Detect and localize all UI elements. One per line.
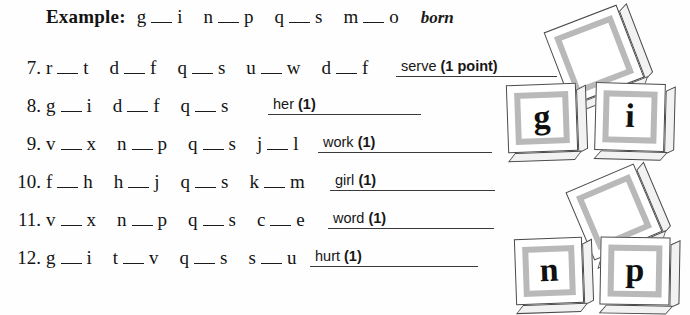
letter-pair: gi (46, 247, 92, 269)
pair-left-letter: q (181, 171, 191, 193)
pair-right-letter: s (220, 247, 227, 269)
block-inner-frame: i (602, 90, 657, 143)
pair-left-letter: g (46, 95, 56, 117)
block-glyph: g (533, 100, 551, 135)
answer-field[interactable]: work (1) (318, 129, 492, 153)
pair-blank[interactable] (132, 224, 153, 226)
pair-blank[interactable] (61, 148, 82, 150)
answer-points: (1) (358, 134, 376, 150)
answer-word: hurt (315, 248, 340, 264)
example-row: Example: ginpqsmo born (46, 6, 454, 28)
letter-pair: uw (246, 57, 300, 79)
pair-left-letter: d (110, 57, 120, 79)
problem-number: 9. (0, 133, 46, 155)
pair-blank[interactable] (128, 186, 149, 188)
pair-left-letter: g (137, 6, 147, 28)
block-face: i (594, 82, 666, 152)
letter-block-n: n (514, 237, 584, 305)
answer-field[interactable]: serve (1 point) (396, 53, 557, 77)
block-side-bottom (599, 305, 674, 315)
pair-right-letter: j (154, 171, 159, 193)
pair-blank[interactable] (151, 21, 172, 23)
letter-pair: gi (46, 95, 92, 117)
pair-left-letter: q (188, 133, 198, 155)
answer-field[interactable]: hurt (1) (310, 243, 478, 267)
letter-pair: qs (188, 209, 236, 231)
pair-blank[interactable] (203, 224, 224, 226)
pair-blank[interactable] (61, 110, 82, 112)
problem-letter-pairs: vxnpqsjl (46, 133, 298, 155)
answer-field[interactable]: girl (1) (330, 167, 495, 191)
pair-left-letter: n (117, 133, 127, 155)
answer-field[interactable]: her (1) (268, 91, 421, 115)
letter-pair: df (113, 95, 160, 117)
letter-pair: qs (180, 247, 228, 269)
answer-field[interactable]: word (1) (328, 205, 494, 229)
block-glyph: i (625, 99, 635, 133)
answer-points: (1) (298, 96, 316, 112)
pair-right-letter: w (287, 57, 301, 79)
pair-left-letter: j (257, 133, 262, 155)
letter-pair: ce (257, 209, 305, 231)
pair-right-letter: i (87, 247, 92, 269)
pair-right-letter: f (150, 57, 156, 79)
letter-pair: qs (188, 133, 236, 155)
pair-right-letter: s (315, 6, 322, 28)
pair-blank[interactable] (267, 148, 288, 150)
pair-right-letter: u (287, 247, 297, 269)
pair-left-letter: d (113, 95, 123, 117)
example-label: Example: (46, 6, 126, 28)
pair-right-letter: x (87, 133, 97, 155)
pair-blank[interactable] (195, 110, 216, 112)
pair-blank[interactable] (61, 224, 82, 226)
pair-blank[interactable] (261, 72, 282, 74)
pair-blank[interactable] (123, 262, 144, 264)
pair-blank[interactable] (132, 148, 153, 150)
letter-pair: su (248, 247, 296, 269)
pair-blank[interactable] (195, 186, 216, 188)
problem-number: 11. (0, 209, 46, 231)
block-face: n (514, 237, 584, 305)
pair-right-letter: v (149, 247, 159, 269)
pair-blank[interactable] (61, 262, 82, 264)
problem-number: 7. (0, 57, 46, 79)
problem-row: 7.rtdfqsuwdf (0, 57, 368, 79)
pair-blank[interactable] (124, 72, 145, 74)
pair-right-letter: s (229, 209, 236, 231)
pair-left-letter: q (181, 95, 191, 117)
pair-blank[interactable] (270, 224, 291, 226)
pair-blank[interactable] (336, 72, 357, 74)
pair-blank[interactable] (57, 72, 78, 74)
pair-blank[interactable] (194, 262, 215, 264)
letter-pair: gi (137, 6, 183, 28)
pair-blank[interactable] (192, 72, 213, 74)
pair-blank[interactable] (261, 262, 282, 264)
problem-row: 9.vxnpqsjl (0, 133, 298, 155)
pair-left-letter: u (246, 57, 256, 79)
problem-number: 8. (0, 95, 46, 117)
pair-blank[interactable] (57, 186, 78, 188)
pair-blank[interactable] (264, 186, 285, 188)
problem-letter-pairs: gitvqssu (46, 247, 296, 269)
pair-blank[interactable] (127, 110, 148, 112)
block-side-right (664, 86, 676, 155)
pair-right-letter: s (221, 95, 228, 117)
answer-text: work (1) (318, 135, 492, 152)
answer-points: (1) (344, 248, 362, 264)
pair-right-letter: o (389, 6, 399, 28)
pair-blank[interactable] (218, 21, 239, 23)
pair-right-letter: s (229, 133, 236, 155)
pair-blank[interactable] (203, 148, 224, 150)
pair-right-letter: h (83, 171, 93, 193)
pair-blank[interactable] (363, 21, 384, 23)
pair-right-letter: f (153, 95, 159, 117)
pair-left-letter: g (46, 247, 56, 269)
pair-left-letter: v (46, 133, 56, 155)
answer-text: serve (1 point) (396, 59, 557, 76)
pair-left-letter: r (46, 57, 52, 79)
pair-left-letter: n (117, 209, 127, 231)
pair-blank[interactable] (289, 21, 310, 23)
problem-letter-pairs: vxnpqsce (46, 209, 305, 231)
block-glyph: n (539, 253, 559, 288)
